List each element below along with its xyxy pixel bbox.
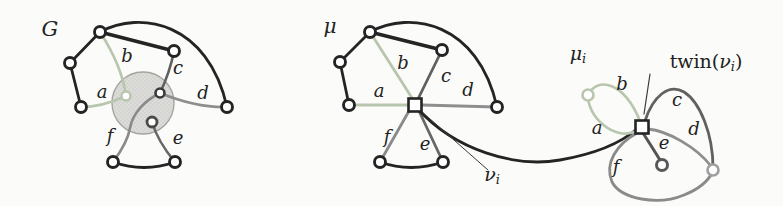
nu-i-pointer-line bbox=[421, 111, 488, 170]
nu-i-square-vertex bbox=[409, 99, 422, 112]
mui-edge-label-a: a bbox=[592, 117, 603, 138]
g-vertex-upper-left bbox=[65, 58, 76, 69]
g-vertex-lower-left bbox=[76, 102, 87, 113]
g-edge-label-b: b bbox=[121, 45, 133, 66]
mui-edge-e bbox=[643, 133, 660, 160]
g-edge-label-a: a bbox=[97, 81, 108, 102]
mu-vertex-lower-left bbox=[344, 100, 355, 111]
mu-vertex-bottom-left bbox=[375, 157, 386, 168]
graph-figure: Gabcdefμabcdefνiμitwin(νi)abcdef bbox=[0, 0, 783, 206]
nu-i-label: νi bbox=[484, 163, 500, 187]
mui-edge-label-f: f bbox=[611, 156, 623, 177]
mui-vertex-light bbox=[583, 90, 594, 101]
mu-edge-c bbox=[418, 50, 442, 99]
mu-label: μ bbox=[324, 14, 337, 38]
g-vertex-top bbox=[95, 27, 106, 38]
mui-edge-label-c: c bbox=[672, 89, 682, 110]
mu-edge-d bbox=[422, 105, 497, 107]
g-edge-label-d: d bbox=[197, 82, 209, 103]
mui-edge-label-e: e bbox=[659, 132, 670, 153]
mu-edge-label-d: d bbox=[462, 79, 474, 100]
mu-vertex-top-right bbox=[437, 45, 448, 56]
mu-edge-label-c: c bbox=[441, 65, 451, 86]
mui-vertex-right bbox=[708, 165, 719, 176]
g-vertex-right bbox=[222, 102, 233, 113]
g-vertex-top-right bbox=[169, 46, 180, 57]
mu-vertex-top bbox=[365, 27, 376, 38]
mu-edge-label-a: a bbox=[374, 80, 385, 101]
g-vertex-bottom-left bbox=[108, 157, 119, 168]
mu-vertex-upper-left bbox=[335, 57, 346, 68]
g-edge-bottom-arc bbox=[113, 162, 175, 168]
g-edge-top-topright bbox=[100, 32, 174, 51]
virtual-edge-connector bbox=[418, 109, 637, 162]
g-edge-label-f: f bbox=[105, 125, 117, 146]
g-edge-label-c: c bbox=[173, 57, 183, 78]
mu-i-label: μi bbox=[570, 42, 587, 66]
mu-edge-bottom-arc bbox=[380, 162, 443, 168]
g-inner-vertex-dark bbox=[156, 89, 165, 98]
mu-edge-label-e: e bbox=[420, 133, 431, 154]
graph-g-label: G bbox=[42, 17, 59, 41]
twin-nu-i-label: twin(νi) bbox=[670, 50, 743, 74]
g-inner-vertex-light bbox=[122, 92, 131, 101]
mu-edge-label-b: b bbox=[397, 52, 409, 73]
mui-edge-label-d: d bbox=[688, 118, 700, 139]
mui-vertex-pendant bbox=[657, 160, 668, 171]
g-inner-vertex-bottom bbox=[147, 117, 157, 127]
mu-vertex-bottom-right bbox=[438, 157, 449, 168]
g-vertex-bottom-right bbox=[170, 157, 181, 168]
mui-edge-label-b: b bbox=[616, 73, 628, 94]
figure-canvas: Gabcdefμabcdefνiμitwin(νi)abcdef bbox=[0, 0, 783, 206]
mu-vertex-right bbox=[492, 102, 503, 113]
twin-nu-i-square-vertex bbox=[636, 121, 649, 134]
g-edge-label-e: e bbox=[173, 127, 184, 148]
